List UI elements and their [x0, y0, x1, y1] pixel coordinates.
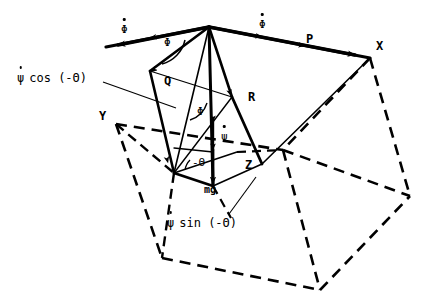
angle-label-phi-upper: Φ [164, 37, 171, 48]
x-to-boxbr-dash [370, 58, 410, 196]
overdot-mark [123, 18, 126, 21]
diagram-canvas: X Y Z P Q R mg Φ Φ -Θ Φ Φ ψ ψ [0, 0, 433, 308]
psi-cos-expression: ψ cos (-Θ) [17, 72, 87, 84]
wedge-cross-2 [150, 71, 232, 97]
diagram-svg [0, 0, 433, 308]
phi-dot-label-left: Φ [121, 24, 128, 35]
overdot-mark [261, 13, 264, 16]
hidden-to-bottom-dash [283, 150, 320, 290]
hidden-to-right-dash [283, 150, 410, 196]
wedge-cross-1 [174, 152, 237, 173]
psi-dot-label-center: ψ [221, 131, 228, 142]
psi-cos-rest: cos (-Θ) [29, 72, 87, 84]
vertex-label-x: X [376, 40, 383, 52]
psi-dot-glyph-center: ψ [221, 131, 228, 142]
psi-dot-glyph-sin: ψ [167, 217, 174, 229]
phi-dot-label-top: Φ [259, 19, 266, 30]
vector-label-q: Q [164, 75, 171, 87]
psi-sin-expression: ψ sin (-Θ) [167, 217, 237, 229]
apex-to-rmid-edge [209, 27, 232, 97]
phi-dot-glyph-top: Φ [259, 19, 266, 30]
psi-dot-glyph-cos: ψ [17, 72, 24, 84]
vector-label-r: R [248, 91, 255, 103]
weight-label-mg: mg [204, 185, 216, 195]
expr-row-cos: ψ cos (-Θ) [17, 72, 87, 84]
overdot-mark [169, 211, 172, 214]
x-to-z-edge [262, 58, 370, 164]
base-bottom-z-edge [213, 164, 262, 186]
vector-label-p: P [306, 33, 313, 45]
angle-label-phi-lower: Φ [197, 106, 204, 117]
box-dashed-edges [116, 58, 410, 290]
rmid-to-z-edge [232, 97, 262, 164]
overdot-mark [223, 125, 226, 128]
y-to-boxbl-dash [116, 124, 162, 258]
boxbc-to-boxbr-dash [320, 196, 410, 290]
angle-label-theta: -Θ [192, 157, 205, 168]
vertex-label-y: Y [99, 110, 106, 122]
boxbl-to-boxbc-dash [162, 258, 320, 290]
psi-sin-rest: sin (-Θ) [179, 217, 237, 229]
psi-sin-leader [229, 177, 256, 214]
phi-dot-glyph-left: Φ [121, 24, 128, 35]
vertex-label-z: Z [245, 159, 252, 171]
overdot-mark [19, 66, 22, 69]
p-vector-arrow [209, 27, 355, 55]
expr-row-sin: ψ sin (-Θ) [167, 217, 237, 229]
